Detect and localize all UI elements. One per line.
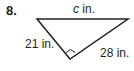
right-angle-marker-icon: [66, 50, 76, 54]
right-triangle-figure: [0, 0, 134, 71]
triangle-outline: [37, 19, 128, 59]
